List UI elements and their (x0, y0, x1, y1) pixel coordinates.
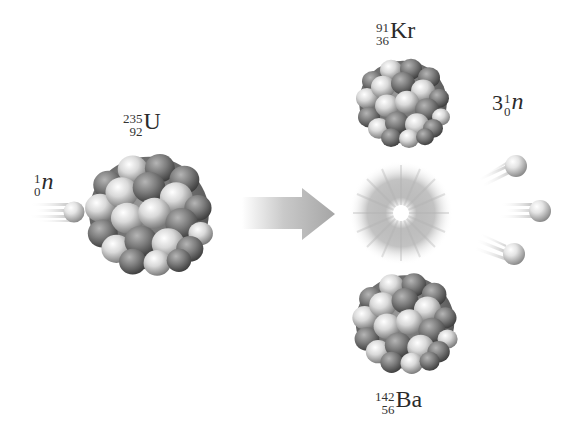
element-symbol: n (512, 90, 524, 112)
krypton-label: 91 36 Kr (376, 19, 415, 47)
element-symbol: n (42, 170, 54, 192)
atomic-number: 0 (504, 105, 511, 118)
outgoing-neutron-1 (478, 155, 527, 186)
element-symbol: Kr (390, 19, 415, 41)
atomic-number: 0 (34, 185, 41, 198)
atomic-number: 36 (376, 34, 389, 47)
atomic-number: 56 (382, 403, 395, 416)
uranium-label: 235 92 U (123, 110, 161, 138)
coefficient: 3 (492, 92, 503, 114)
product-neutrons-label: 3 1 0 n (492, 90, 524, 118)
reaction-arrow (242, 188, 335, 240)
barium-nucleus (352, 273, 457, 374)
outgoing-neutron-2 (498, 200, 551, 222)
outgoing-neutron-3 (474, 234, 525, 265)
element-symbol: U (144, 110, 161, 132)
energy-burst (349, 161, 453, 265)
incoming-neutron-label: 1 0 n (34, 170, 54, 198)
diagram-graphics (0, 0, 585, 433)
atomic-number: 92 (130, 125, 143, 138)
barium-label: 142 56 Ba (375, 388, 422, 416)
krypton-nucleus (356, 59, 450, 148)
uranium-nucleus (85, 154, 213, 276)
element-symbol: Ba (396, 388, 423, 410)
fission-diagram: 1 0 n 235 92 U 91 36 Kr 3 (0, 0, 585, 433)
incoming-neutron (28, 202, 85, 223)
